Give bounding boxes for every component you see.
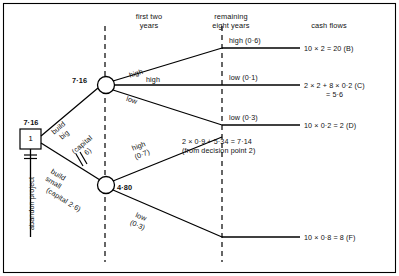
annotation-line-1: 2 × 0·9 + 5·34 = 7·14 xyxy=(182,137,252,146)
decision-tree-figure: first two years remaining eight years ca… xyxy=(0,0,399,276)
cash-flow-C: 2 × 2 + 8 × 0·2 (C) xyxy=(304,81,365,90)
decision-node-value: 7·16 xyxy=(13,118,49,127)
remaining-label-low-01: low (0·1) xyxy=(229,73,258,82)
chance-node-big xyxy=(98,77,115,94)
chance-node-small xyxy=(98,177,115,194)
header-cash-flows: cash flows xyxy=(296,21,362,30)
cash-flow-D: 10 × 0·2 = 2 (D) xyxy=(304,121,356,130)
cash-flow-B: 10 × 2 = 20 (B) xyxy=(304,44,353,53)
header-remaining-eight-years: remaining eight years xyxy=(196,12,266,31)
chance-node-big-value: 7·16 xyxy=(72,76,87,85)
remaining-label-low-03: low (0·3) xyxy=(229,113,258,122)
abandon-project-label: abandon project xyxy=(27,177,36,230)
annotation-line-2: (from decision point 2) xyxy=(182,146,255,155)
chance-node-small-value: 4·80 xyxy=(117,183,132,192)
cash-flow-F: 10 × 0·8 = 8 (F) xyxy=(304,233,356,242)
cash-flow-C-total: = 5·6 xyxy=(326,90,343,99)
decision-box-label: 1 xyxy=(20,134,41,143)
header-first-two-years: first two years xyxy=(116,12,182,31)
branch-label-big-high-flat: high xyxy=(146,75,160,84)
remaining-label-high-06: high (0·6) xyxy=(229,36,261,45)
